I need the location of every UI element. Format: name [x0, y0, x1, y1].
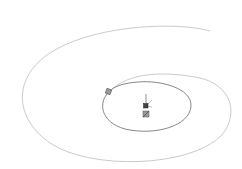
cad-viewport[interactable] — [0, 0, 242, 169]
endpoint-marker[interactable] — [105, 88, 111, 94]
sketch-graphics[interactable] — [0, 0, 242, 169]
spiral-curve-outer[interactable] — [22, 26, 231, 162]
origin-triad-icon — [144, 94, 153, 108]
sketch-origin-icon — [143, 111, 149, 117]
